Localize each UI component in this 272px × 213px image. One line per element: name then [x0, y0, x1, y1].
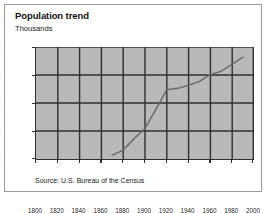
y-tick-mark	[32, 47, 36, 48]
x-tick-mark	[35, 159, 36, 163]
chart-subtitle: Thousands	[15, 24, 53, 33]
population-line	[112, 57, 243, 155]
y-tick-mark	[32, 75, 36, 76]
plot-area-wrapper: 880 660 440 220 0 1800 1820 1840 1860 18…	[35, 47, 253, 159]
x-tick-mark	[57, 159, 58, 163]
y-tick-mark	[32, 103, 36, 104]
source-note: Source: U.S. Bureau of the Census	[35, 177, 144, 184]
plot-area	[35, 47, 254, 160]
x-tick-mark	[252, 159, 253, 163]
x-tick-mark	[166, 159, 167, 163]
chart-svg	[36, 47, 254, 159]
x-tick-mark	[188, 159, 189, 163]
x-tick-mark	[144, 159, 145, 163]
x-tick-mark	[231, 159, 232, 163]
x-tick-mark	[79, 159, 80, 163]
x-tick-mark	[122, 159, 123, 163]
x-tick-mark	[100, 159, 101, 163]
x-tick-mark	[209, 159, 210, 163]
chart-title: Population trend	[15, 10, 89, 21]
y-tick-mark	[32, 131, 36, 132]
chart-figure: Population trend Thousands	[4, 4, 262, 192]
